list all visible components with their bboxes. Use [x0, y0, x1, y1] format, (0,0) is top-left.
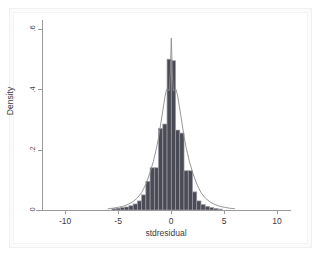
y-tick-label-1: .2 — [28, 144, 37, 156]
x-tick-label-1: -5 — [106, 216, 130, 226]
histogram-bar — [180, 133, 184, 210]
histogram-bar — [188, 171, 192, 210]
x-tick-label-4: 10 — [265, 216, 289, 226]
y-axis-title: Density — [5, 71, 15, 131]
x-tick-label-0: -10 — [53, 216, 77, 226]
y-tick-label-0: 0 — [28, 204, 37, 216]
histogram-bars — [112, 59, 222, 210]
histogram-bar — [154, 168, 158, 210]
y-tick-mark-2 — [38, 89, 42, 90]
y-tick-label-2: .4 — [28, 83, 37, 95]
x-tick-mark-0 — [65, 210, 66, 214]
y-tick-label-3: .6 — [28, 23, 37, 35]
histogram-density-svg — [42, 20, 290, 210]
x-tick-label-3: 5 — [212, 216, 236, 226]
x-tick-mark-3 — [224, 210, 225, 214]
y-tick-mark-1 — [38, 150, 42, 151]
plot-area — [42, 20, 290, 210]
histogram-bar — [197, 201, 201, 210]
histogram-bar — [176, 130, 180, 210]
x-tick-label-2: 0 — [159, 216, 183, 226]
x-axis-line — [36, 210, 291, 211]
histogram-bar — [150, 168, 154, 210]
histogram-bar — [171, 61, 175, 210]
y-tick-mark-3 — [38, 29, 42, 30]
x-tick-mark-4 — [277, 210, 278, 214]
x-axis-title: stdresidual — [42, 228, 290, 238]
x-tick-mark-1 — [118, 210, 119, 214]
y-tick-mark-0 — [38, 210, 42, 211]
histogram-bar — [146, 181, 150, 210]
histogram-bar — [167, 59, 171, 210]
x-tick-mark-2 — [171, 210, 172, 214]
histogram-bar — [137, 201, 141, 210]
histogram-bar — [184, 171, 188, 210]
histogram-bar — [142, 195, 146, 210]
histogram-bar — [193, 192, 197, 210]
chart-canvas: 0 .2 .4 .6 -10 -5 0 5 10 Density stdresi… — [0, 0, 321, 256]
histogram-bar — [159, 129, 163, 210]
y-axis-line — [42, 20, 43, 210]
histogram-bar — [163, 124, 167, 210]
